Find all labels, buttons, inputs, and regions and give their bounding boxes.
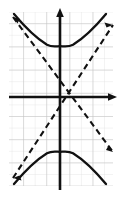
hyperbola-graph-svg <box>0 0 122 198</box>
hyperbola-graph-figure <box>0 0 122 198</box>
